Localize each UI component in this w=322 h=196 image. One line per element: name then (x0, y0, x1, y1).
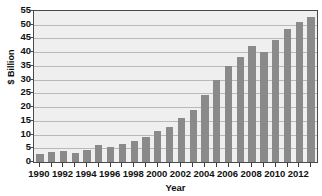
x-tick-mark (62, 163, 63, 167)
x-tick-mark (74, 163, 75, 167)
y-tick-mark (29, 106, 33, 107)
x-tick-label: 1996 (99, 168, 120, 179)
x-tick-mark (157, 163, 158, 167)
y-tick-mark (29, 24, 33, 25)
y-tick-mark (29, 51, 33, 52)
x-tick-mark (228, 163, 229, 167)
x-tick-label: 2010 (264, 168, 285, 179)
x-tick-mark (287, 163, 288, 167)
x-tick-mark (145, 163, 146, 167)
x-tick-label: 1994 (75, 168, 96, 179)
x-axis-title: Year (33, 182, 318, 193)
x-tick-label: 1998 (123, 168, 144, 179)
x-tick-mark (216, 163, 217, 167)
x-tick-mark (51, 163, 52, 167)
y-tick-mark (29, 147, 33, 148)
y-tick-mark (29, 79, 33, 80)
y-tick-mark (29, 134, 33, 135)
chart-title-cropped (36, 0, 276, 3)
y-tick-mark (29, 10, 33, 11)
x-tick-label: 1992 (52, 168, 73, 179)
x-tick-mark (239, 163, 240, 167)
y-tick-mark (29, 65, 33, 66)
x-tick-mark (98, 163, 99, 167)
y-tick-mark (29, 120, 33, 121)
y-tick-mark (29, 161, 33, 162)
x-tick-mark (310, 163, 311, 167)
y-tick-mark (29, 37, 33, 38)
x-tick-mark (180, 163, 181, 167)
x-tick-mark (86, 163, 87, 167)
y-axis-tick-marks (33, 10, 318, 163)
x-axis-tick-labels: 1990199219941996199820002002200420062008… (33, 168, 318, 181)
x-tick-mark (192, 163, 193, 167)
x-tick-mark (275, 163, 276, 167)
x-tick-mark (39, 163, 40, 167)
x-tick-mark (133, 163, 134, 167)
x-tick-label: 1990 (28, 168, 49, 179)
x-tick-label: 2006 (217, 168, 238, 179)
x-tick-mark (110, 163, 111, 167)
x-tick-label: 2008 (241, 168, 262, 179)
x-tick-mark (204, 163, 205, 167)
y-tick-mark (29, 92, 33, 93)
y-axis-tick-labels: 0510152025303540455055 (14, 0, 31, 196)
x-tick-mark (251, 163, 252, 167)
bar-chart: $ Billion 0510152025303540455055 1990199… (0, 0, 322, 196)
x-tick-label: 2012 (288, 168, 309, 179)
x-tick-mark (169, 163, 170, 167)
x-tick-label: 2004 (193, 168, 214, 179)
x-tick-mark (121, 163, 122, 167)
x-tick-label: 2002 (170, 168, 191, 179)
x-tick-mark (298, 163, 299, 167)
x-tick-label: 2000 (146, 168, 167, 179)
x-tick-mark (263, 163, 264, 167)
